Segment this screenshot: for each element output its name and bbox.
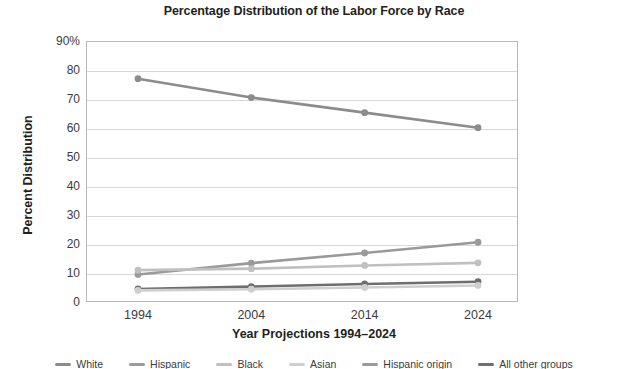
legend-swatch-icon <box>478 363 494 366</box>
data-point <box>361 262 368 269</box>
legend-swatch-icon <box>362 363 378 366</box>
legend-label: All other groups <box>499 358 573 369</box>
data-point <box>135 287 142 294</box>
legend-label: Hispanic origin <box>383 358 452 369</box>
chart-legend: WhiteHispanicBlackAsianHispanic originAl… <box>0 358 628 369</box>
legend-item[interactable]: Hispanic origin <box>362 358 452 369</box>
legend-label: White <box>76 358 103 369</box>
series-line-white <box>138 79 478 128</box>
x-tick-label: 2004 <box>206 308 296 322</box>
data-point <box>361 109 368 116</box>
legend-item[interactable]: Asian <box>289 358 336 369</box>
data-point <box>248 265 255 272</box>
data-point <box>361 284 368 291</box>
data-point <box>475 259 482 266</box>
legend-item[interactable]: Black <box>216 358 263 369</box>
x-tick-label: 1994 <box>93 308 183 322</box>
chart-container: Percentage Distribution of the Labor For… <box>0 0 628 369</box>
x-axis-title: Year Projections 1994–2024 <box>0 327 628 341</box>
legend-swatch-icon <box>129 363 145 366</box>
legend-swatch-icon <box>55 363 71 366</box>
legend-label: Hispanic <box>150 358 190 369</box>
data-point <box>248 94 255 101</box>
series-line-black <box>138 263 478 270</box>
legend-label: Asian <box>310 358 336 369</box>
legend-item[interactable]: White <box>55 358 103 369</box>
legend-item[interactable]: Hispanic <box>129 358 190 369</box>
data-point <box>135 75 142 82</box>
legend-item[interactable]: All other groups <box>478 358 573 369</box>
legend-label: Black <box>237 358 263 369</box>
data-point <box>248 286 255 293</box>
data-point <box>475 282 482 289</box>
legend-swatch-icon <box>289 363 305 366</box>
data-point <box>135 267 142 274</box>
x-tick-label: 2014 <box>320 308 410 322</box>
data-point <box>475 239 482 246</box>
data-point <box>361 250 368 257</box>
legend-swatch-icon <box>216 363 232 366</box>
data-point <box>475 124 482 131</box>
x-tick-label: 2024 <box>433 308 523 322</box>
